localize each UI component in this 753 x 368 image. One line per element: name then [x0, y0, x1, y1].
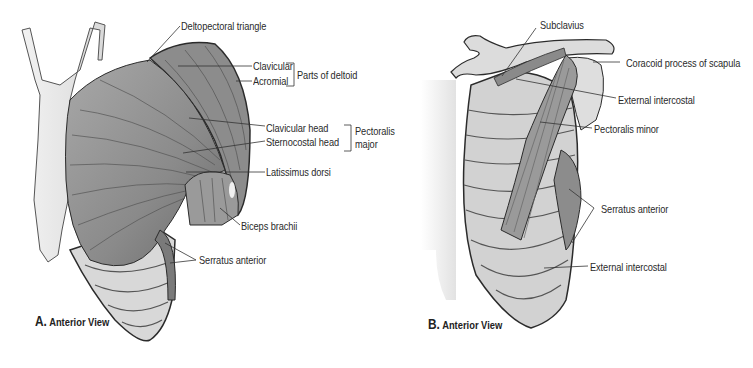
- label-clavicular-head: Clavicular head: [266, 122, 328, 134]
- label-serratus-anterior-b: Serratus anterior: [601, 203, 668, 215]
- label-pectoralis-major-2: major: [355, 138, 378, 150]
- label-sternocostal-head: Sternocostal head: [266, 136, 339, 148]
- label-external-intercostal-upper: External intercostal: [618, 94, 695, 106]
- label-acromial: Acromial: [253, 75, 288, 87]
- caption-b-text: Anterior View: [442, 319, 502, 331]
- caption-b: B. Anterior View: [428, 316, 502, 332]
- label-subclavius: Subclavius: [540, 19, 584, 31]
- figure-b-anterior-view: Subclavius Coracoid process of scapula E…: [376, 0, 753, 368]
- label-pectoralis-minor: Pectoralis minor: [594, 123, 659, 135]
- caption-a-letter: A.: [35, 313, 47, 329]
- caption-a-text: Anterior View: [49, 316, 109, 328]
- caption-b-letter: B.: [428, 316, 440, 332]
- label-external-intercostal-lower: External intercostal: [590, 261, 667, 273]
- label-coracoid-process: Coracoid process of scapula: [626, 57, 740, 69]
- figure-a-anterior-view: Deltopectoral triangle Clavicular Acromi…: [0, 0, 376, 368]
- label-serratus-anterior-a: Serratus anterior: [199, 254, 266, 266]
- caption-a: A. Anterior View: [35, 313, 109, 329]
- figure-b-illustration: [376, 0, 753, 368]
- label-deltopectoral-triangle: Deltopectoral triangle: [181, 20, 266, 32]
- label-parts-of-deltoid: Parts of deltoid: [297, 69, 357, 81]
- label-latissimus-dorsi: Latissimus dorsi: [266, 166, 331, 178]
- shading: [421, 80, 456, 300]
- label-clavicular: Clavicular: [253, 60, 293, 72]
- label-biceps-brachii: Biceps brachii: [241, 220, 297, 232]
